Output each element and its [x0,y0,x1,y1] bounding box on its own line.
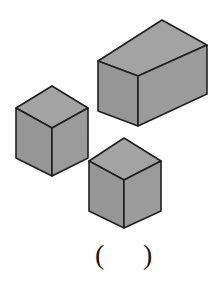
answer-open-paren: ( [95,241,104,269]
answer-blank[interactable] [106,243,142,267]
figure-canvas: ( ) [0,0,218,285]
answer-close-paren: ) [143,241,152,269]
